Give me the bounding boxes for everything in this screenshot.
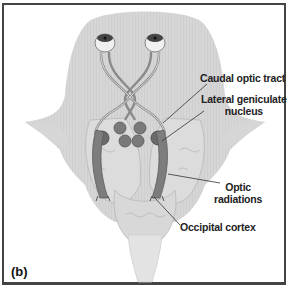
label-or-line2: radiations: [214, 193, 262, 205]
panel-label: (b): [11, 264, 28, 279]
right-eye: [145, 34, 165, 52]
label-caudal-optic-tract: Caudal optic tract: [200, 72, 285, 84]
left-eye: [95, 34, 115, 52]
label-or-line1: Optic: [214, 181, 262, 193]
label-lateral-geniculate-nucleus: Lateral geniculate nucleus: [201, 93, 287, 117]
label-lgn-line1: Lateral geniculate: [201, 93, 287, 105]
label-occipital-cortex: Occipital cortex: [180, 221, 256, 233]
brain-diagram: [0, 0, 290, 289]
label-lgn-line2: nucleus: [201, 105, 287, 117]
label-optic-radiations: Optic radiations: [214, 181, 262, 205]
